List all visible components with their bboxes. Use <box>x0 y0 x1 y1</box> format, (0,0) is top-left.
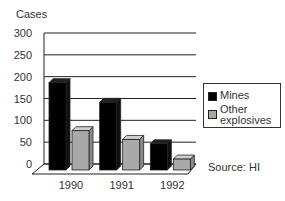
mines-swatch-icon <box>208 92 217 101</box>
svg-text:250: 250 <box>14 49 32 61</box>
svg-text:50: 50 <box>20 136 32 148</box>
legend-label-other-line2: explosives <box>220 114 271 126</box>
svg-text:300: 300 <box>14 27 32 39</box>
svg-text:0: 0 <box>26 158 32 170</box>
legend: Mines Other explosives <box>203 83 281 128</box>
svg-text:1992: 1992 <box>160 179 184 191</box>
legend-item-other: Other explosives <box>208 104 271 126</box>
legend-item-mines: Mines <box>208 90 249 101</box>
svg-text:1991: 1991 <box>109 179 133 191</box>
svg-text:200: 200 <box>14 71 32 83</box>
legend-label-mines: Mines <box>220 90 249 101</box>
other-swatch-icon <box>208 110 217 119</box>
legend-label-other: Other explosives <box>220 104 271 126</box>
svg-text:150: 150 <box>14 93 32 105</box>
source-note: Source: HI <box>208 161 260 173</box>
svg-text:100: 100 <box>14 114 32 126</box>
svg-text:1990: 1990 <box>59 179 83 191</box>
